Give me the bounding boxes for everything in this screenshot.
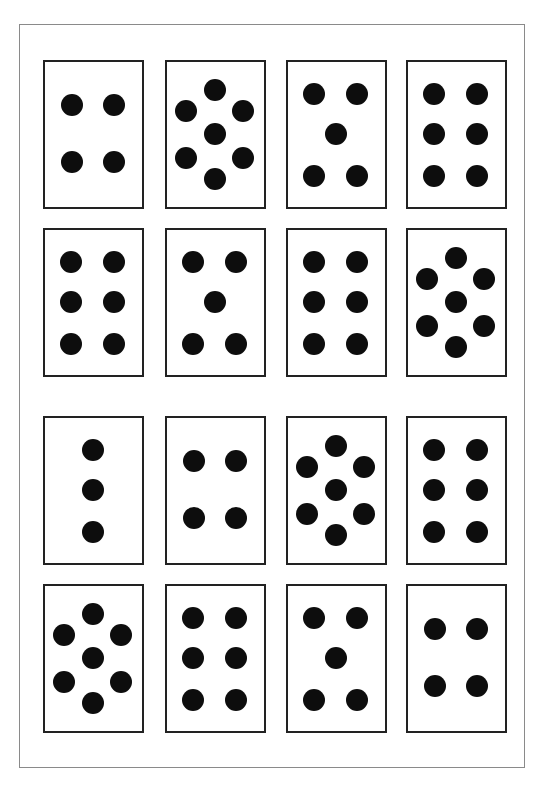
- dot-card: [43, 416, 144, 565]
- dot-icon: [175, 100, 197, 122]
- dot-icon: [353, 456, 375, 478]
- dot-icon: [225, 507, 247, 529]
- dot-icon: [303, 333, 325, 355]
- dot-icon: [466, 618, 488, 640]
- dot-icon: [466, 165, 488, 187]
- dot-icon: [225, 647, 247, 669]
- dot-icon: [303, 251, 325, 273]
- dot-icon: [416, 315, 438, 337]
- dot-card: [406, 416, 507, 565]
- dot-icon: [303, 607, 325, 629]
- dot-icon: [303, 165, 325, 187]
- dot-icon: [60, 251, 82, 273]
- dot-icon: [346, 83, 368, 105]
- dot-icon: [60, 333, 82, 355]
- dot-card: [406, 228, 507, 377]
- dot-card: [43, 60, 144, 209]
- dot-icon: [473, 315, 495, 337]
- dot-icon: [466, 123, 488, 145]
- dot-icon: [183, 450, 205, 472]
- dot-card: [43, 584, 144, 733]
- dot-icon: [296, 503, 318, 525]
- dot-icon: [325, 647, 347, 669]
- dot-icon: [466, 439, 488, 461]
- dot-icon: [445, 247, 467, 269]
- dot-icon: [82, 439, 104, 461]
- dot-card: [286, 60, 387, 209]
- dot-icon: [325, 123, 347, 145]
- dot-icon: [296, 456, 318, 478]
- dot-icon: [303, 291, 325, 313]
- dot-icon: [346, 291, 368, 313]
- dot-icon: [82, 647, 104, 669]
- dot-icon: [346, 333, 368, 355]
- dot-icon: [204, 168, 226, 190]
- dot-icon: [82, 603, 104, 625]
- dot-icon: [182, 333, 204, 355]
- dot-icon: [82, 692, 104, 714]
- dot-icon: [423, 123, 445, 145]
- dot-icon: [423, 439, 445, 461]
- dot-icon: [103, 291, 125, 313]
- dot-icon: [182, 647, 204, 669]
- dot-icon: [182, 251, 204, 273]
- dot-icon: [424, 618, 446, 640]
- dot-icon: [423, 83, 445, 105]
- dot-icon: [53, 624, 75, 646]
- dot-icon: [225, 607, 247, 629]
- dot-icon: [346, 607, 368, 629]
- dot-icon: [225, 689, 247, 711]
- dot-icon: [103, 333, 125, 355]
- dot-icon: [103, 251, 125, 273]
- dot-icon: [204, 291, 226, 313]
- dot-icon: [416, 268, 438, 290]
- dot-icon: [466, 675, 488, 697]
- dot-icon: [82, 521, 104, 543]
- dot-icon: [423, 165, 445, 187]
- dot-icon: [61, 151, 83, 173]
- dot-icon: [466, 83, 488, 105]
- dot-icon: [103, 94, 125, 116]
- dot-icon: [325, 435, 347, 457]
- dot-card: [286, 228, 387, 377]
- dot-icon: [225, 450, 247, 472]
- dot-icon: [353, 503, 375, 525]
- dot-icon: [423, 521, 445, 543]
- dot-card: [286, 416, 387, 565]
- dot-icon: [346, 689, 368, 711]
- dot-icon: [303, 689, 325, 711]
- dot-icon: [423, 479, 445, 501]
- dot-card: [43, 228, 144, 377]
- dot-icon: [204, 79, 226, 101]
- dot-icon: [424, 675, 446, 697]
- dot-icon: [346, 165, 368, 187]
- dot-icon: [225, 251, 247, 273]
- dot-icon: [182, 689, 204, 711]
- dot-card: [286, 584, 387, 733]
- dot-icon: [182, 607, 204, 629]
- dot-icon: [232, 147, 254, 169]
- dot-icon: [466, 479, 488, 501]
- dot-icon: [225, 333, 247, 355]
- dot-icon: [82, 479, 104, 501]
- dot-card: [165, 416, 266, 565]
- dot-icon: [103, 151, 125, 173]
- dot-icon: [175, 147, 197, 169]
- dot-icon: [466, 521, 488, 543]
- dot-icon: [183, 507, 205, 529]
- dot-icon: [473, 268, 495, 290]
- dot-icon: [61, 94, 83, 116]
- dot-card: [165, 228, 266, 377]
- dot-icon: [445, 336, 467, 358]
- dot-icon: [232, 100, 254, 122]
- dot-card: [165, 584, 266, 733]
- dot-icon: [110, 624, 132, 646]
- dot-card: [165, 60, 266, 209]
- dot-card: [406, 584, 507, 733]
- dot-icon: [60, 291, 82, 313]
- dot-icon: [325, 479, 347, 501]
- dot-icon: [110, 671, 132, 693]
- dot-icon: [53, 671, 75, 693]
- dot-card: [406, 60, 507, 209]
- dot-icon: [303, 83, 325, 105]
